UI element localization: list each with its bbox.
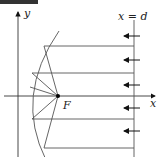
parabolic-reflector-diagram: y x x = d F [0,0,162,157]
arrows-left [124,36,140,131]
x-axis-label: x [150,97,157,110]
incoming-rays [32,46,134,148]
y-axis-label: y [23,7,31,20]
focus-label: F [62,99,71,112]
focus-point [56,94,60,98]
reflected-rays [30,46,58,148]
parabola-curve [33,31,59,157]
directrix-label: x = d [118,10,147,23]
